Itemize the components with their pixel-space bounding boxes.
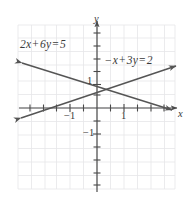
x-tick-label-1: 1: [121, 110, 126, 121]
eq2-plus: +: [118, 54, 127, 66]
x-tick-label-neg1: −1: [64, 110, 75, 121]
y-axis: [93, 21, 101, 192]
equation-label-2: −x+3y=2: [104, 54, 153, 66]
y-tick-label-1: 1: [87, 75, 92, 86]
y-axis-label: y: [94, 13, 99, 24]
x-axis-label: x: [178, 108, 183, 119]
coordinate-graph-figure: 2x+6y=5 −x+3y=2 y x −1 1 1 −1: [0, 0, 190, 205]
equation-label-1: 2x+6y=5: [20, 38, 66, 50]
eq2-sign: −: [104, 54, 113, 66]
line-neg-x-3y-2: [21, 66, 176, 118]
graph-canvas: [0, 0, 190, 205]
eq1-equals: =: [51, 38, 60, 50]
y-tick-label-neg1: −1: [83, 127, 94, 138]
eq2-equals: =: [138, 54, 147, 66]
eq1-plus: +: [31, 38, 40, 50]
eq2-const: 2: [147, 54, 153, 66]
eq1-const: 5: [60, 38, 66, 50]
